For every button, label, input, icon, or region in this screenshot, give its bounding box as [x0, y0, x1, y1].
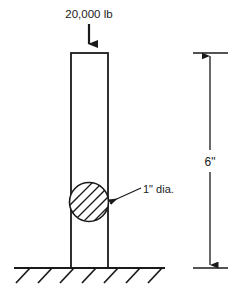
ground-hatching [16, 268, 162, 283]
hole-diameter-label: 1" dia. [143, 183, 174, 195]
height-label: 6" [205, 155, 216, 169]
diagram-canvas: 20,000 lb 1" dia. [0, 0, 233, 293]
load-label: 20,000 lb [65, 8, 112, 20]
engineering-diagram: 20,000 lb 1" dia. [0, 0, 233, 293]
hole-leader-line [110, 188, 141, 202]
column-body [71, 53, 108, 268]
